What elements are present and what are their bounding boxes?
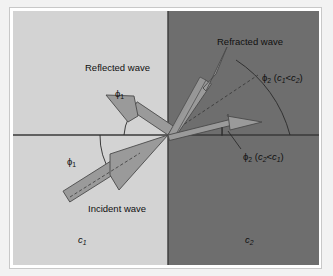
reflected-wave-label: Reflected wave xyxy=(85,62,150,73)
diagram-canvas: Reflected wave Refracted wave Incident w… xyxy=(0,0,333,276)
figure-container: Reflected wave Refracted wave Incident w… xyxy=(0,0,333,276)
medium-1-region xyxy=(13,11,168,265)
medium-2-region xyxy=(168,11,319,265)
incident-wave-label: Incident wave xyxy=(88,203,146,214)
refracted-wave-label: Refracted wave xyxy=(217,36,283,47)
